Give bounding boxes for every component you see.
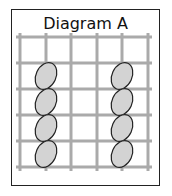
grid-diagram	[0, 0, 172, 196]
